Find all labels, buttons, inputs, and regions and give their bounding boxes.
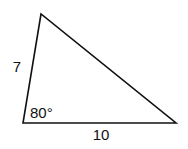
angle-label: 80° bbox=[30, 104, 53, 121]
triangle-diagram: 7 80° 10 bbox=[0, 0, 188, 149]
left-side-label: 7 bbox=[13, 58, 21, 75]
bottom-side-label: 10 bbox=[93, 126, 110, 143]
